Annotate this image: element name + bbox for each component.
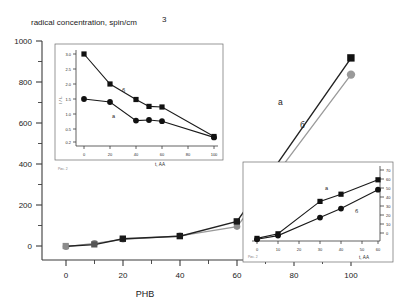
inset2-xtick-60: 60 <box>376 247 381 252</box>
data-point <box>317 215 323 221</box>
main-xtick-80: 80 <box>290 271 299 280</box>
main-curve-label-b: б <box>300 120 305 130</box>
inset2-ytick-20: 20 <box>386 213 391 218</box>
data-point <box>375 177 380 182</box>
data-point <box>211 135 217 141</box>
inset1-caption: Рис. 2 <box>58 167 68 171</box>
main-xtick-60: 60 <box>233 271 242 280</box>
inset1-ytick-2.0: 2.0 <box>65 82 71 87</box>
data-point <box>375 187 381 193</box>
inset2-xtick-10: 10 <box>276 247 281 252</box>
inset1-xaxis-label: t, АА <box>155 162 166 167</box>
main-ytick-400: 400 <box>19 160 33 169</box>
data-point <box>275 233 281 239</box>
inset1-yaxis-label: I / I₀ <box>58 96 63 104</box>
inset1-ytick-3.0: 3.0 <box>65 52 71 57</box>
data-point <box>146 117 152 123</box>
inset1-ytick-2.5: 2.5 <box>65 67 71 72</box>
main-ytick-0: 0 <box>28 242 33 251</box>
inset-frame <box>55 44 223 160</box>
inset1-xtick-20: 20 <box>108 152 113 157</box>
data-point <box>63 243 69 249</box>
data-point <box>347 70 355 78</box>
inset2-curve-label-b: б <box>355 208 358 214</box>
inset1-ytick-0.2: 0.2 <box>65 140 71 145</box>
inset2-xaxis-label: t, АА <box>359 255 370 260</box>
chart-title: radical concentration, spin/cm <box>31 18 137 27</box>
main-ytick-800: 800 <box>19 78 33 87</box>
data-point <box>234 218 240 224</box>
inset2-ytick-60: 60 <box>386 177 391 182</box>
main-curve-label-a: a <box>278 97 283 107</box>
data-point <box>338 206 344 212</box>
main-xtick-100: 100 <box>344 271 358 280</box>
data-point <box>91 241 97 247</box>
data-point <box>107 81 112 86</box>
main-ytick-200: 200 <box>19 201 33 210</box>
inset1-curve-label-b: б <box>122 87 125 93</box>
inset1-xtick-100: 100 <box>211 152 218 157</box>
inset1-ytick-1.0: 1.0 <box>65 112 71 117</box>
main-xtick-0: 0 <box>64 271 69 280</box>
inset2-ytick-30: 30 <box>386 204 391 209</box>
inset2-xtick-30: 30 <box>318 247 323 252</box>
data-point <box>81 96 87 102</box>
main-xaxis-label: PHB <box>136 289 155 299</box>
main-xtick-20: 20 <box>119 271 128 280</box>
data-point <box>338 192 343 197</box>
inset1-ytick-0.5: 0.5 <box>65 127 71 132</box>
inset1-xtick-40: 40 <box>134 152 139 157</box>
inset2-xtick-40: 40 <box>339 247 344 252</box>
chart-title-superscript: 3 <box>162 15 167 24</box>
data-point <box>133 97 138 102</box>
data-point <box>107 99 113 105</box>
data-point <box>177 233 183 239</box>
data-point <box>159 118 165 124</box>
inset2-ytick-40: 40 <box>386 195 391 200</box>
inset2-xtick-20: 20 <box>297 247 302 252</box>
data-point <box>133 118 139 124</box>
main-ytick-600: 600 <box>19 119 33 128</box>
inset2-ytick-50: 50 <box>386 186 391 191</box>
inset2-xtick-50: 50 <box>360 247 365 252</box>
main-ytick-1000: 1000 <box>14 37 32 46</box>
main-xtick-40: 40 <box>176 271 185 280</box>
data-point <box>81 51 86 56</box>
inset2-ytick-10: 10 <box>386 222 391 227</box>
figure-container: radical concentration, spin/cm 3 1000 80… <box>0 0 396 307</box>
data-point <box>120 236 126 242</box>
inset1-xtick-60: 60 <box>160 152 165 157</box>
inset2-ytick-70: 70 <box>386 168 391 173</box>
inset-top-left: 3.0 2.5 2.0 1.5 1.0 0.5 0.2 I / I₀ 0 20 … <box>55 44 223 171</box>
data-point <box>347 54 354 61</box>
chart-svg: radical concentration, spin/cm 3 1000 80… <box>0 0 396 307</box>
data-point <box>317 199 322 204</box>
inset1-xtick-80: 80 <box>186 152 191 157</box>
data-point <box>254 236 260 242</box>
inset1-ytick-1.5: 1.5 <box>65 97 71 102</box>
inset-bottom-right: 70 60 50 40 30 20 10 0 0 10 20 30 40 50 … <box>243 162 393 262</box>
data-point <box>146 104 151 109</box>
data-point <box>159 104 164 109</box>
inset2-caption: Рис. 2 <box>248 255 258 259</box>
